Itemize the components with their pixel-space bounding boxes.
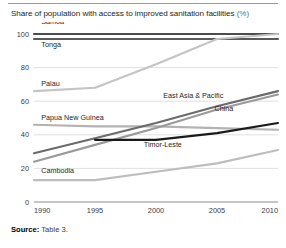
series-line [34,150,278,180]
x-tick-label: 1995 [87,206,103,214]
series-label: Tonga [41,40,61,49]
series-label: Timor-Leste [144,140,182,149]
plot-area: 020406080100 19901995200020052010 SamoaT… [0,22,286,214]
x-tick-label: 2010 [262,206,278,214]
data-series-group [34,34,278,180]
series-label: Papua New Guinea [41,113,103,122]
series-label: Palau [41,79,59,88]
figure-container: Share of population with access to impro… [0,0,286,248]
top-divider-rule [8,3,278,4]
y-tick-label: 40 [21,130,29,139]
chart-title-text: Share of population with access to impro… [11,9,235,18]
x-tick-label: 1990 [34,206,50,214]
x-axis-tick-labels: 19901995200020052010 [34,206,278,214]
y-tick-label: 60 [21,97,29,106]
source-value: Table 3. [41,225,68,234]
y-tick-label: 80 [21,63,29,72]
source-note: Source: Table 3. [11,225,68,234]
series-line [34,34,278,91]
chart-title: Share of population with access to impro… [11,9,249,19]
y-tick-label: 0 [25,198,29,207]
chart-title-unit: (%) [237,9,249,18]
y-tick-label: 100 [17,30,29,39]
series-label: Cambodia [41,166,74,175]
source-label: Source: [11,225,39,234]
series-label: China [215,104,234,113]
y-axis-tick-labels: 020406080100 [17,30,29,207]
y-tick-label: 20 [21,164,29,173]
x-tick-label: 2000 [148,206,164,214]
line-chart-svg: 020406080100 19901995200020052010 SamoaT… [0,22,286,214]
series-label: East Asia & Pacific [163,91,223,100]
series-label: Samoa [41,22,64,26]
x-tick-label: 2005 [209,206,225,214]
